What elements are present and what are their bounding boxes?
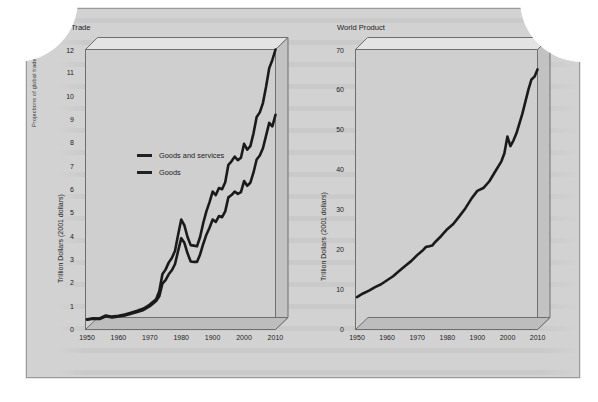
- wxtick-2010: 2010: [530, 334, 546, 341]
- xtick-1980: 1980: [173, 334, 189, 341]
- chart-world-plot: 0 10 20 30 40 50 60 70 1950 1960 1970 19…: [355, 37, 551, 342]
- wytick-60: 60: [336, 86, 344, 93]
- legend-item-goods: Goods: [137, 168, 224, 177]
- wytick-20: 20: [336, 246, 344, 253]
- legend-swatch-icon: [137, 154, 152, 157]
- xtick-2010: 2010: [268, 334, 284, 341]
- scanned-page: Projections of global trade trends from …: [0, 0, 598, 402]
- ytick-8: 8: [70, 139, 74, 146]
- legend-label: Goods: [159, 168, 181, 177]
- chart-trade-title: Trade: [71, 23, 91, 32]
- legend-item-goods-and-services: Goods and services: [137, 151, 224, 160]
- figure-panel: Projections of global trade trends from …: [26, 8, 580, 378]
- wxtick-1950: 1950: [349, 334, 365, 341]
- xtick-1970: 1970: [142, 334, 158, 341]
- ytick-11: 11: [67, 69, 74, 76]
- wytick-70: 70: [336, 46, 344, 53]
- chart-trade-plot: 0 1 2 3 4 5 6 7 8 9 10 11 12 1950 1960: [85, 37, 289, 342]
- ytick-4: 4: [70, 232, 74, 239]
- wxtick-1980: 1980: [440, 334, 456, 341]
- ytick-0: 0: [70, 326, 74, 333]
- ytick-9: 9: [70, 116, 74, 123]
- wytick-40: 40: [336, 166, 344, 173]
- xtick-2000: 2000: [236, 334, 252, 341]
- ytick-3: 3: [70, 256, 74, 263]
- wxtick-1960: 1960: [379, 334, 395, 341]
- wytick-30: 30: [336, 206, 344, 213]
- chart-trade-legend: Goods and services Goods: [137, 151, 224, 185]
- ytick-12: 12: [66, 46, 74, 53]
- xtick-1960: 1960: [111, 334, 127, 341]
- wytick-0: 0: [340, 326, 344, 333]
- wytick-10: 10: [336, 286, 344, 293]
- legend-swatch-icon: [137, 171, 152, 174]
- chart-world-product: World Product Trillion Dollars (2001 dol…: [315, 23, 565, 367]
- legend-label: Goods and services: [159, 151, 224, 160]
- ytick-1: 1: [70, 302, 74, 309]
- wytick-50: 50: [336, 126, 344, 133]
- ytick-10: 10: [66, 92, 74, 99]
- figure-side-caption: Projections of global trade trends from …: [31, 0, 37, 127]
- ytick-7: 7: [70, 162, 74, 169]
- wxtick-2000: 2000: [500, 334, 516, 341]
- ytick-2: 2: [70, 279, 74, 286]
- chart-world-title: World Product: [337, 23, 385, 32]
- chart-world-3d-frame: [355, 37, 551, 342]
- ytick-5: 5: [70, 209, 74, 216]
- wxtick-1990: 1900: [470, 334, 486, 341]
- xtick-1950: 1950: [79, 334, 95, 341]
- ytick-6: 6: [70, 186, 74, 193]
- wxtick-1970: 1970: [409, 334, 425, 341]
- xtick-1990: 1900: [205, 334, 221, 341]
- chart-trade-3d-frame: [85, 37, 289, 342]
- chart-trade: Trade Trillion Dollars (2001 dollars): [49, 23, 307, 367]
